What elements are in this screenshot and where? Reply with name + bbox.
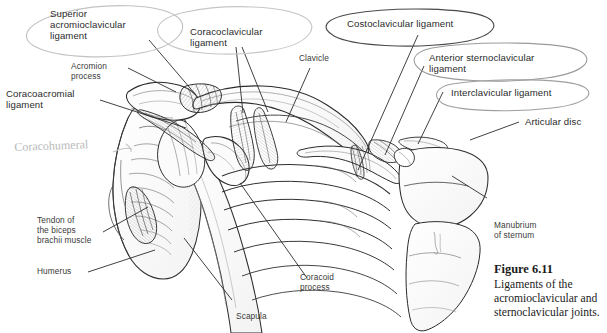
label-interclavicular-ligament: Interclavicular ligament bbox=[451, 87, 552, 98]
handwritten-annotation-coracohumeral: Coracohumeral bbox=[14, 137, 88, 155]
label-humerus: Humerus bbox=[37, 267, 71, 277]
leader-coracoclavicular-a bbox=[236, 47, 243, 113]
leader-articular-disc bbox=[470, 122, 519, 140]
leader-interclavicular-ligament bbox=[418, 92, 443, 144]
label-coracoclavicular-ligament: Coracoclavicular ligament bbox=[190, 26, 263, 48]
articular-disc-group bbox=[394, 148, 414, 166]
figure-canvas: Superior acromioclavicular ligament Cora… bbox=[0, 0, 607, 333]
label-coracoacromial-ligament: Coracoacromial ligament bbox=[6, 88, 75, 110]
figure-caption-line-1: Ligaments of the bbox=[494, 278, 573, 291]
label-coracoid-process: Coracoid process bbox=[300, 273, 334, 293]
label-costoclavicular-ligament: Costoclavicular ligament bbox=[347, 18, 453, 29]
figure-number: Figure 6.11 bbox=[494, 262, 553, 276]
label-acromion-process: Acromion process bbox=[71, 62, 107, 82]
label-clavicle: Clavicle bbox=[299, 54, 329, 64]
label-manubrium-of-sternum: Manubrium of sternum bbox=[494, 221, 536, 241]
label-anterior-sternoclavicular-ligament: Anterior sternoclavicular ligament bbox=[429, 52, 534, 74]
label-superior-acromioclavicular-ligament: Superior acromioclavicular ligament bbox=[50, 8, 126, 42]
coracoclavicular-ligament-group bbox=[231, 106, 278, 170]
label-articular-disc: Articular disc bbox=[525, 116, 581, 127]
manubrium-sternum-group bbox=[399, 148, 488, 331]
figure-caption-line-3: sternoclavicular joints. bbox=[494, 306, 600, 319]
label-tendon-of-biceps-brachii-muscle: Tendon of the biceps brachii muscle bbox=[37, 216, 91, 245]
superior-acromioclavicular-ligament-group bbox=[180, 84, 222, 113]
figure-caption-line-2: acromioclavicular and bbox=[494, 292, 597, 305]
label-scapula: Scapula bbox=[236, 312, 267, 322]
leader-coracoid-process bbox=[240, 183, 307, 278]
